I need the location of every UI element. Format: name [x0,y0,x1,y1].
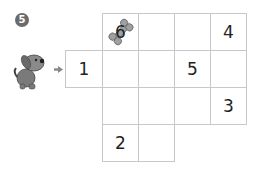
cell-value: 4 [223,22,234,42]
grid-cell-r1-c2[interactable] [138,50,175,88]
grid-cell-r2-c1[interactable] [102,87,139,125]
dog-icon [12,50,48,90]
grid-cell-r2-c4[interactable]: 3 [210,87,247,125]
grid-cell-r0-c1[interactable]: 6 [102,13,139,51]
cell-value: 2 [115,133,126,153]
grid-cell-r1-c3[interactable]: 5 [174,50,211,88]
grid-cell-r3-c2[interactable] [138,124,175,162]
cell-value: 3 [223,96,234,116]
puzzle-number-badge: 5 [15,13,29,27]
cell-value: 5 [187,59,198,79]
grid-cell-r2-c3[interactable] [174,87,211,125]
grid-cell-r1-c1[interactable] [102,50,139,88]
grid-cell-r0-c4[interactable]: 4 [210,13,247,51]
cell-value: 6 [115,22,126,42]
grid-cell-r0-c3[interactable] [174,13,211,51]
arrow-right-icon [54,66,63,73]
grid-cell-r3-c1[interactable]: 2 [102,124,139,162]
grid-cell-r1-c0[interactable]: 1 [65,50,103,88]
cell-value: 1 [79,59,90,79]
grid-cell-r1-c4[interactable] [210,50,247,88]
grid-cell-r2-c2[interactable] [138,87,175,125]
grid-cell-r0-c2[interactable] [138,13,175,51]
